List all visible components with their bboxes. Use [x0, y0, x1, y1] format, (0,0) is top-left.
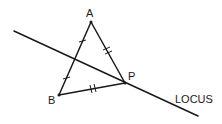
side-ab	[59, 22, 91, 95]
label-a: A	[86, 7, 94, 19]
geometry-diagram: A B P LOCUS	[0, 0, 222, 124]
vertex-b	[58, 94, 61, 97]
side-bp	[59, 83, 125, 95]
label-p: P	[128, 70, 135, 82]
vertex-p	[124, 82, 127, 85]
vertex-a	[90, 21, 93, 24]
label-locus: LOCUS	[175, 93, 213, 105]
label-b: B	[48, 94, 55, 106]
locus-line	[14, 31, 198, 116]
